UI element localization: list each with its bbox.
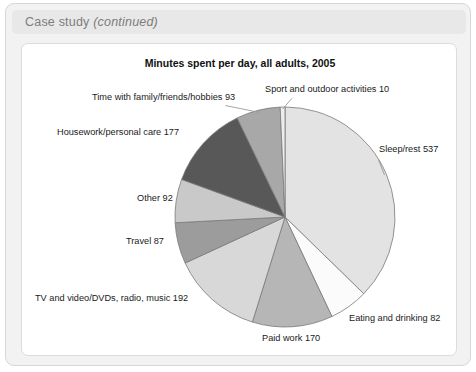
pie-label-eating: Eating and drinking 82 (349, 313, 440, 324)
pie-label-housework: Housework/personal care 177 (57, 127, 179, 138)
pie-chart-svg (22, 44, 458, 357)
case-study-header-emphasis: (continued) (93, 15, 158, 29)
case-study-card: Case study (continued) Minutes spent per… (5, 3, 471, 366)
pie-chart: Sport and outdoor activities 10 Time wit… (22, 44, 458, 357)
case-study-header: Case study (continued) (12, 10, 466, 34)
pie-label-sport: Sport and outdoor activities 10 (265, 84, 389, 95)
pie-label-other: Other 92 (137, 193, 173, 204)
pie-label-paid-work: Paid work 170 (262, 333, 320, 344)
pie-slice-group (175, 107, 395, 327)
chart-panel: Minutes spent per day, all adults, 2005 … (21, 43, 457, 356)
pie-label-travel: Travel 87 (126, 236, 164, 247)
pie-label-sleep: Sleep/rest 537 (379, 144, 438, 155)
pie-label-tv: TV and video/DVDs, radio, music 192 (35, 293, 188, 304)
leader-line (225, 105, 258, 112)
case-study-header-label: Case study (continued) (25, 15, 158, 29)
case-study-header-prefix: Case study (25, 15, 93, 29)
screenshot-root: Case study (continued) Minutes spent per… (0, 0, 476, 372)
pie-label-family: Time with family/friends/hobbies 93 (92, 92, 235, 103)
